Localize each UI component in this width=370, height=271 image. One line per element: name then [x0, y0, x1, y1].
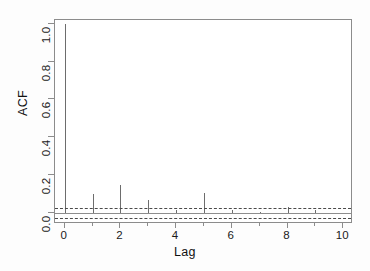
x-tick-1: [92, 223, 93, 226]
x-tick-label-0: 0: [49, 229, 79, 241]
y-tick-label-0-6: 0.6: [40, 97, 52, 123]
x-tick-label-10: 10: [327, 229, 357, 241]
x-tick-3: [147, 223, 148, 226]
acf-spike-lag-0: [65, 24, 66, 213]
y-tick-label-1-0: 1.0: [40, 22, 52, 48]
x-tick-label-2: 2: [104, 229, 134, 241]
plot-frame: [54, 19, 352, 223]
y-tick-label-0-2: 0.2: [40, 173, 52, 199]
acf-plot-screenshot: ACF 1.00.80.60.40.20.0 0246810 Lag: [0, 0, 370, 271]
y-tick-label-0-8: 0.8: [40, 60, 52, 86]
x-tick-2: [119, 223, 120, 228]
x-axis-title: Lag: [0, 245, 370, 259]
confidence-lower: [55, 218, 351, 219]
zero-line: [55, 213, 351, 214]
x-tick-0: [64, 223, 65, 228]
x-tick-label-6: 6: [216, 229, 246, 241]
acf-spike-lag-1: [93, 194, 94, 213]
x-tick-8: [287, 223, 288, 228]
x-tick-label-4: 4: [160, 229, 190, 241]
confidence-upper: [55, 208, 351, 209]
x-tick-9: [314, 223, 315, 226]
y-tick-label-0-4: 0.4: [40, 135, 52, 161]
plot-data-area: [55, 20, 351, 222]
acf-spike-lag-5: [204, 193, 205, 213]
x-tick-4: [175, 223, 176, 228]
x-tick-6: [231, 223, 232, 228]
acf-spike-lag-3: [148, 200, 149, 212]
x-tick-7: [259, 223, 260, 226]
x-tick-5: [203, 223, 204, 226]
y-axis-title: ACF: [16, 86, 30, 120]
x-tick-label-8: 8: [272, 229, 302, 241]
x-tick-10: [342, 223, 343, 228]
